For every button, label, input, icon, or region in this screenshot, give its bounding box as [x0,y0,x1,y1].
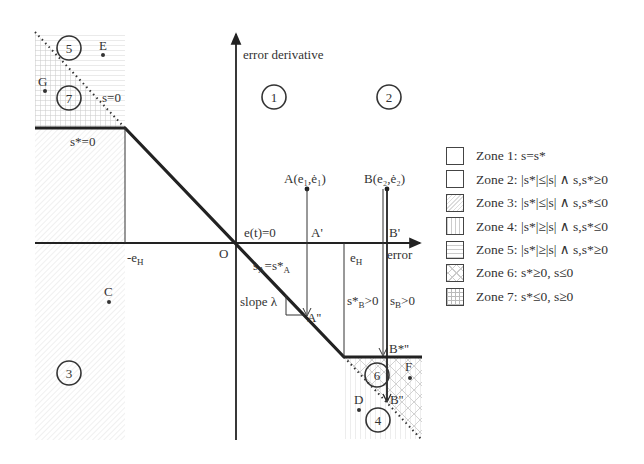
x-axis-label: error [387,247,413,262]
point-g-label: G [38,74,47,89]
et-zero-label: e(t)=0 [244,225,276,240]
zone-marker-1: 1 [262,85,286,109]
point-b-star-dprime-label: B*'' [389,341,409,356]
zone-2-swatch [446,170,464,188]
legend-label: Zone 3: |s*|≤|s| ∧ s,s*≤0 [476,194,608,211]
zone-5-swatch [446,241,464,259]
eh-label: eH [350,250,363,267]
point-a-dprime-label: A'' [307,310,321,325]
y-axis-label: error derivative [243,47,324,62]
svg-text:4: 4 [375,413,382,428]
point-b-dprime-label: B'' [390,392,403,407]
point-d-label: D [354,392,363,407]
point-a-label: A(e₁,ė₁) [284,171,326,186]
point-b-prime-label: B' [389,225,400,240]
legend-item-zone-3: Zone 3: |s*|≤|s| ∧ s,s*≤0 [446,191,608,215]
point-d-dot [357,408,361,412]
s-zero-label: s=0 [102,90,121,105]
point-g-dot [43,89,47,93]
point-c-label: C [104,284,113,299]
point-e-dot [101,53,105,57]
point-b-label: B(e₂,ė₂) [364,171,405,186]
point-c-dot [107,300,111,304]
neg-eh-label: -eH [127,250,144,267]
zone-4-swatch [446,217,464,235]
zone-marker-2: 2 [377,85,401,109]
zone-3-swatch [446,194,464,212]
svg-text:5: 5 [66,41,73,56]
origin-label: O [219,246,228,261]
sb-star-label: s*B>0 [347,293,378,310]
svg-text:1: 1 [271,90,278,105]
point-e-label: E [99,38,107,53]
svg-text:6: 6 [374,368,381,383]
legend-item-zone-1: Zone 1: s=s* [446,144,608,168]
sb-label: sB>0 [390,293,415,310]
legend-label: Zone 1: s=s* [476,148,546,164]
legend-label: Zone 2: |s*|≤|s| ∧ s,s*≥0 [476,171,608,188]
svg-text:3: 3 [66,366,73,381]
legend-item-zone-4: Zone 4: |s*|≥|s| ∧ s,s*≤0 [446,215,608,239]
point-a-prime-label: A' [311,225,323,240]
slope-label: slope λ [240,294,278,309]
sa-equals-sstar-label: sA=s*A [253,258,290,275]
zone-legend: Zone 1: s=s* Zone 2: |s*|≤|s| ∧ s,s*≥0 Z… [446,144,608,309]
svg-text:7: 7 [66,91,73,106]
svg-text:2: 2 [386,90,393,105]
point-f-dot [408,376,412,380]
zone-7-swatch [446,288,464,306]
legend-item-zone-7: Zone 7: s*≤0, s≥0 [446,285,608,309]
legend-label: Zone 4: |s*|≥|s| ∧ s,s*≤0 [476,218,608,235]
legend-label: Zone 5: |s*|≥|s| ∧ s,s*≥0 [476,241,608,258]
s-star-zero-label: s*=0 [70,134,95,149]
legend-label: Zone 7: s*≤0, s≥0 [476,289,573,305]
point-f-label: F [405,359,412,374]
legend-item-zone-5: Zone 5: |s*|≥|s| ∧ s,s*≥0 [446,238,608,262]
legend-item-zone-6: Zone 6: s*≥0, s≤0 [446,262,608,286]
legend-label: Zone 6: s*≥0, s≤0 [476,265,573,281]
zone-6-swatch [446,264,464,282]
zone-1-swatch [446,147,464,165]
legend-item-zone-2: Zone 2: |s*|≤|s| ∧ s,s*≥0 [446,168,608,192]
